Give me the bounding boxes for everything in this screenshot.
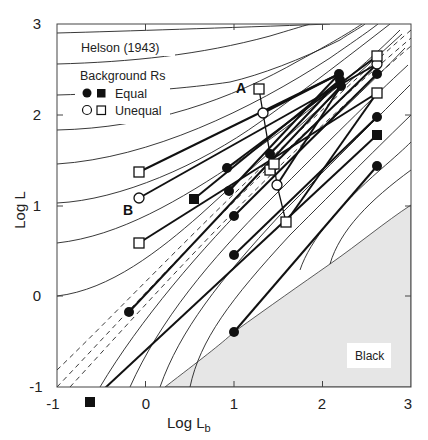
y-axis-title: Log L (11, 191, 28, 229)
svg-text:3: 3 (404, 395, 412, 412)
x-tick-labels: -1 0 1 2 3 (46, 395, 412, 412)
legend-open-circle-icon (83, 106, 92, 115)
svg-text:0: 0 (33, 287, 41, 304)
legend-filled-circle-icon (83, 89, 92, 98)
x-axis-title: Log Lb (167, 414, 211, 434)
svg-text:3: 3 (33, 15, 41, 32)
legend-open-square-icon (97, 106, 106, 115)
point-label-b: B (123, 202, 133, 218)
y-tick-labels: -1 0 1 2 3 (29, 15, 42, 395)
svg-text:1: 1 (33, 197, 41, 214)
chart: Helson (1943) Background Rs Equal Unequa… (0, 0, 428, 440)
legend-title: Background Rs (80, 69, 165, 83)
legend-equal-label: Equal (115, 87, 147, 101)
svg-text:-1: -1 (29, 378, 42, 395)
point-label-a: A (236, 80, 246, 96)
black-region-label: Black (355, 349, 385, 363)
svg-text:2: 2 (318, 395, 326, 412)
svg-text:0: 0 (142, 395, 150, 412)
legend-unequal-label: Unequal (115, 104, 162, 118)
legend-filled-square-icon (97, 89, 106, 98)
svg-text:1: 1 (230, 395, 238, 412)
helson-label: Helson (1943) (81, 41, 160, 55)
svg-text:2: 2 (33, 106, 41, 123)
svg-text:-1: -1 (46, 395, 59, 412)
